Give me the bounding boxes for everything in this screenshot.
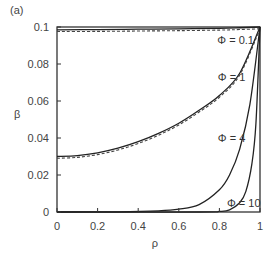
series-4-line [57,27,260,212]
curve-annotation: Φ = 4 [218,132,245,144]
panel-label: (a) [10,4,23,16]
x-tick-label: 0.8 [212,220,227,232]
y-tick-label: 0.04 [28,132,49,144]
x-tick-label: 1 [257,220,263,232]
x-tick-label: 0.6 [171,220,186,232]
x-axis-label: ρ [152,237,158,249]
chart: (a) 00.020.040.060.080.1 00.20.40.60.81 … [0,0,273,259]
plot-area [57,27,260,212]
curve-annotation: Φ = 0.1 [217,34,254,46]
x-tick-label: 0 [54,220,60,232]
plot-frame [57,27,260,212]
series-10-line [57,27,260,212]
y-tick-label: 0.1 [34,21,49,33]
x-tick-label: 0.4 [131,220,146,232]
x-tick-label: 0.2 [90,220,105,232]
curve-annotation: Φ = 10 [227,197,261,209]
y-tick-label: 0.06 [28,95,49,107]
curve-annotation: Φ = 1 [218,71,245,83]
y-tick-label: 0.02 [28,169,49,181]
y-tick-label: 0 [43,206,49,218]
y-axis-label: β [14,108,20,120]
y-tick-label: 0.08 [28,58,49,70]
annotations: Φ = 0.1Φ = 1Φ = 4Φ = 10 [217,34,260,209]
y-axis: 00.020.040.060.080.1 [28,21,61,218]
